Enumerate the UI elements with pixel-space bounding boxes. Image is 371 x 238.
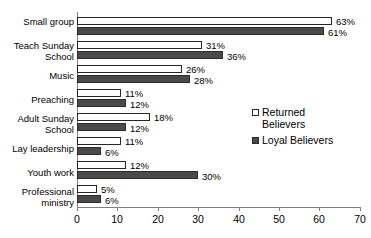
- category-label-music: Music: [0, 71, 74, 82]
- bar-returned-professional-ministry[interactable]: [77, 185, 97, 193]
- legend: Returned Believers Loyal Believers: [252, 106, 364, 147]
- bar-value-returned-adult-sunday-school: 18%: [154, 113, 173, 123]
- bar-loyal-youth-work[interactable]: [77, 171, 198, 179]
- bar-loyal-lay-leadership[interactable]: [77, 147, 101, 155]
- legend-item-returned-believers[interactable]: Returned Believers: [252, 106, 364, 130]
- x-tick-30: [198, 207, 199, 211]
- bar-value-returned-youth-work: 12%: [130, 161, 149, 171]
- bar-loyal-small-group[interactable]: [77, 27, 324, 35]
- bar-value-returned-teach-sunday-school: 31%: [206, 41, 225, 51]
- x-tick-40: [239, 207, 240, 211]
- bar-returned-small-group[interactable]: [77, 17, 332, 25]
- bar-loyal-professional-ministry[interactable]: [77, 195, 101, 203]
- x-tick-label-30: 30: [183, 213, 213, 225]
- category-label-small-group: Small group: [0, 17, 74, 28]
- bar-value-loyal-lay-leadership: 6%: [105, 148, 119, 158]
- category-label-teach-sunday-school: Teach Sunday School: [0, 41, 74, 62]
- bar-loyal-preaching[interactable]: [77, 99, 126, 107]
- bar-returned-youth-work[interactable]: [77, 161, 126, 169]
- bar-loyal-teach-sunday-school[interactable]: [77, 51, 223, 59]
- x-axis-line: [77, 207, 360, 208]
- category-label-lay-leadership: Lay leadership: [0, 144, 74, 155]
- x-tick-10: [117, 207, 118, 211]
- x-tick-50: [279, 207, 280, 211]
- bar-returned-adult-sunday-school[interactable]: [77, 113, 150, 121]
- bar-value-returned-lay-leadership: 11%: [125, 137, 143, 147]
- bar-value-returned-professional-ministry: 5%: [101, 185, 115, 195]
- category-label-youth-work: Youth work: [0, 168, 74, 179]
- legend-item-loyal-believers[interactable]: Loyal Believers: [252, 134, 364, 146]
- legend-label-returned-believers: Returned Believers: [262, 106, 364, 130]
- bar-value-loyal-music: 28%: [194, 76, 213, 86]
- bar-returned-lay-leadership[interactable]: [77, 137, 121, 145]
- x-tick-label-50: 50: [264, 213, 294, 225]
- x-tick-60: [319, 207, 320, 211]
- bar-chart: Small group Teach Sunday School Music Pr…: [0, 0, 371, 238]
- x-tick-label-60: 60: [304, 213, 334, 225]
- bar-returned-teach-sunday-school[interactable]: [77, 41, 202, 49]
- bar-returned-preaching[interactable]: [77, 89, 121, 97]
- bar-value-loyal-preaching: 12%: [130, 100, 149, 110]
- x-tick-label-10: 10: [102, 213, 132, 225]
- x-tick-20: [158, 207, 159, 211]
- bar-value-loyal-small-group: 61%: [328, 28, 347, 38]
- category-label-adult-sunday-school: Adult Sunday School: [0, 114, 74, 135]
- x-tick-label-20: 20: [143, 213, 173, 225]
- category-label-preaching: Preaching: [0, 95, 74, 106]
- bar-value-returned-small-group: 63%: [336, 17, 355, 27]
- bar-returned-music[interactable]: [77, 65, 182, 73]
- x-tick-0: [77, 207, 78, 211]
- bar-loyal-adult-sunday-school[interactable]: [77, 123, 126, 131]
- x-tick-label-40: 40: [224, 213, 254, 225]
- bar-value-loyal-teach-sunday-school: 36%: [227, 52, 246, 62]
- bar-value-loyal-professional-ministry: 6%: [105, 196, 119, 206]
- x-tick-label-0: 0: [62, 213, 92, 225]
- legend-swatch-returned-icon: [252, 109, 259, 116]
- bar-value-returned-preaching: 11%: [125, 89, 143, 99]
- x-tick-label-70: 70: [345, 213, 371, 225]
- bar-loyal-music[interactable]: [77, 75, 190, 83]
- legend-label-loyal-believers: Loyal Believers: [262, 134, 364, 146]
- bar-value-returned-music: 26%: [186, 65, 205, 75]
- x-tick-70: [360, 207, 361, 211]
- bar-value-loyal-adult-sunday-school: 12%: [130, 124, 149, 134]
- legend-swatch-loyal-icon: [252, 137, 259, 144]
- category-label-professional-ministry: Professional ministry: [0, 187, 74, 208]
- bar-value-loyal-youth-work: 30%: [202, 172, 221, 182]
